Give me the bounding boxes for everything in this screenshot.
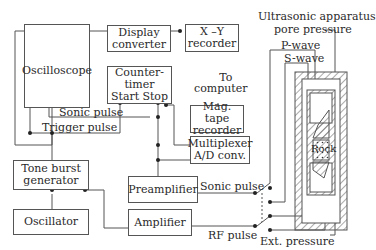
s-wave-label: S-wave	[284, 53, 324, 65]
counter-timer-block: Counter- timer Start Stop	[107, 66, 172, 104]
trigger-pulse-label: Trigger pulse	[42, 122, 117, 134]
oscilloscope-block: Oscilloscope	[24, 24, 90, 108]
p-wave-label: P-wave	[281, 40, 320, 52]
sonic-pulse-label-top: Sonic pulse	[59, 107, 123, 119]
rf-pulse-label: RF pulse	[208, 230, 257, 242]
rock-label: Rock	[311, 143, 336, 155]
amplifier-block: Amplifier	[128, 209, 192, 236]
preamplifier-block: Preamplifier	[128, 176, 198, 203]
sonic-pulse-label-right: Sonic pulse	[200, 181, 264, 193]
ultrasonic-apparatus-label: Ultrasonic apparatus	[258, 11, 376, 23]
pore-pressure-label: pore pressure	[274, 24, 352, 36]
multiplexer-block: Multiplexer A/D conv.	[190, 136, 250, 164]
oscillator-block: Oscillator	[13, 209, 89, 235]
mag-tape-recorder-block: Mag. tape recorder	[190, 105, 244, 133]
ext-pressure-label: Ext. pressure	[260, 236, 335, 248]
stop-terminal: Stop	[142, 91, 168, 103]
start-terminal: Start	[111, 91, 139, 103]
display-converter-block: Display converter	[107, 25, 171, 52]
tone-burst-generator-block: Tone burst generator	[13, 160, 89, 190]
to-computer-label: To computer	[204, 72, 248, 94]
xy-recorder-block: X –Y recorder	[185, 24, 239, 52]
